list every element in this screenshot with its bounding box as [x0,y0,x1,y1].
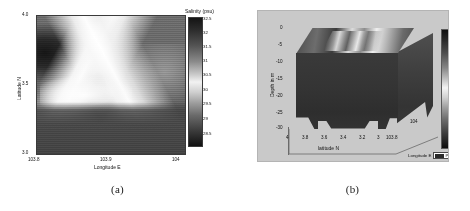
panel-a-y-axis-title: Latitude N [16,77,22,100]
panel-b-ytick-0: 0 [280,25,283,30]
panel-a-colorbar-title: Salinity (psu) [185,8,214,14]
panel-a-cbtick-8: 28.5 [203,131,212,136]
panel-b-ytick-6: -30 [276,125,283,130]
panel-a-xtick-1: 103.9 [100,157,112,162]
panel-b-xtick-2: 3.6 [321,135,327,140]
panel-b-xtick-4: 3.2 [359,135,365,140]
panel-a-colorbar [188,17,203,147]
panel-b-xtick-0: 4 [286,135,289,140]
panel-b-ytick-5: -25 [276,110,283,115]
panel-a-xtick-0: 103.8 [28,157,40,162]
panel-a-cbtick-5: 30 [203,87,208,92]
figure-container: 4.0 3.5 3.0 103.8 103.9 104 Longitude E … [0,0,470,211]
panel-b-caption: (b) [235,183,470,195]
panel-a-cbtick-2: 31.5 [203,44,212,49]
panel-a-cbtick-3: 31 [203,58,208,63]
block-front-face [296,53,398,129]
panel-a-cbtick-1: 32 [203,30,208,35]
legend-color-swatch [435,154,444,158]
panel-b-ytick-1: -5 [278,42,282,47]
panel-b-xtick-1: 3.8 [302,135,308,140]
panel-b-colorbar [441,29,449,149]
legend-box: PSU [433,152,449,159]
panel-a-cbtick-6: 29.5 [203,101,212,106]
panel-b-xtick-3: 3.4 [340,135,346,140]
heatmap-grain-texture [37,16,185,154]
panel-a-ytick-2: 3.0 [22,150,28,155]
panel-b-ytick-2: -10 [276,59,283,64]
salinity-heatmap [37,16,185,154]
panel-b-ytick-3: -15 [276,76,283,81]
panel-b-plot-area: 0 -5 -10 -15 -20 -25 -30 4 3.8 3.6 3.4 3… [257,10,449,162]
legend-axis-label: Longitude E [408,153,431,158]
panel-b-ztick-1: 104 [410,119,418,124]
block-side-face [397,33,433,129]
panel-a-caption: (a) [0,183,235,195]
panel-a-ytick-0: 4.0 [22,12,28,17]
panel-a-xtick-2: 104 [172,157,180,162]
panel-a-cbtick-7: 29 [203,116,208,121]
panel-b-x-axis-title: latitude N [318,145,339,151]
panel-a: 4.0 3.5 3.0 103.8 103.9 104 Longitude E … [0,0,235,211]
panel-b-axes-3d: 0 -5 -10 -15 -20 -25 -30 4 3.8 3.6 3.4 3… [258,11,448,161]
panel-a-plot-area [36,15,186,155]
panel-b-ytick-4: -20 [276,93,283,98]
legend-unit-label: PSU [445,153,449,158]
panel-b-y-axis-title: Depth in m [269,73,275,97]
panel-a-cbtick-4: 30.5 [203,72,212,77]
panel-a-cbtick-0: 32.5 [203,16,212,21]
panel-b: 0 -5 -10 -15 -20 -25 -30 4 3.8 3.6 3.4 3… [235,0,470,211]
block-surface-streak [322,31,388,51]
panel-a-x-axis-title: Longitude E [94,164,121,170]
panel-b-legend: Longitude E PSU [408,151,449,160]
panel-a-ytick-1: 3.5 [22,81,28,86]
panel-b-xtick-5: 3 [377,135,380,140]
panel-b-ztick-0: 103.8 [386,135,398,140]
